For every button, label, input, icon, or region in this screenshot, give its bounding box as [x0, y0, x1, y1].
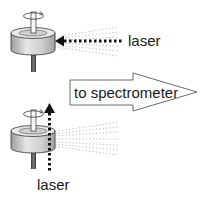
rotating-sample-holder-icon — [11, 12, 55, 56]
shaft-lower-icon — [31, 53, 36, 72]
rotating-sample-holder-icon — [11, 110, 55, 154]
scatter-cone-icon — [52, 122, 118, 155]
raman-setup-diagram: laser to spectrometer — [0, 0, 210, 198]
top-setup: laser — [11, 12, 161, 73]
bottom-setup: laser — [11, 103, 118, 193]
to-spectrometer-label: to spectrometer — [74, 84, 178, 101]
output-arrow: to spectrometer — [70, 73, 197, 111]
bottom-laser-label: laser — [37, 176, 70, 193]
top-laser-label: laser — [128, 32, 161, 49]
